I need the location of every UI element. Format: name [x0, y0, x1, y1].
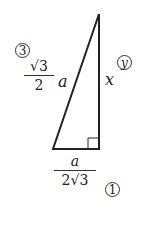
marker-circle-1: 1 [105, 182, 120, 197]
den-coefficient: 2 [62, 172, 71, 188]
base-label: a 2√3 [54, 153, 96, 188]
denominator: 2 [24, 77, 54, 93]
fraction-bar [24, 75, 54, 76]
marker-circle-y: y [117, 55, 132, 70]
numerator: a [54, 153, 96, 169]
vertical-side-label: x [105, 70, 114, 89]
right-angle-marker [88, 138, 99, 149]
hypotenuse-variable: a [58, 72, 68, 91]
radicand: 3 [79, 172, 88, 188]
marker-circle-3: 3 [15, 43, 30, 58]
sqrt-symbol: √ [30, 58, 39, 74]
hypotenuse-coefficient: √3 2 [24, 58, 54, 93]
radicand: 3 [39, 58, 48, 74]
fraction-bar [54, 170, 96, 171]
